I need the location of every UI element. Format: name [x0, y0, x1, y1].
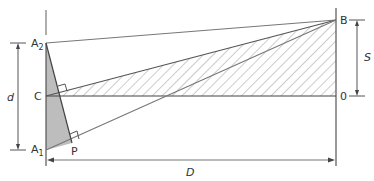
label-B: B — [340, 14, 348, 27]
label-A2: A2 — [31, 37, 44, 52]
label-d: d — [7, 91, 15, 104]
d-arrowhead-bottom — [16, 144, 20, 150]
label-D: D — [186, 166, 194, 179]
label-S: S — [364, 51, 371, 64]
D-arrowhead-left — [47, 158, 54, 163]
S-arrowhead-bottom — [355, 90, 359, 96]
geometry-diagram: A2 C A1 P B 0 d S D — [0, 0, 374, 181]
d-arrowhead-top — [16, 43, 20, 49]
right-angle-mark-upper — [58, 84, 67, 91]
label-C: C — [34, 90, 42, 103]
D-arrowhead-right — [328, 158, 335, 163]
S-arrowhead-top — [355, 20, 359, 26]
label-P: P — [71, 145, 78, 158]
label-A1: A1 — [31, 143, 44, 158]
label-O: 0 — [340, 90, 347, 103]
